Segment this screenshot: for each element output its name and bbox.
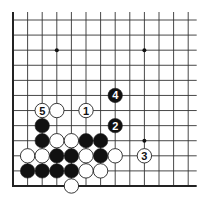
star-point-icon [142,48,146,52]
stone-black [64,164,78,178]
stone-black [50,149,64,163]
black-stone-icon [50,164,64,178]
stone-black [50,164,64,178]
move-number-label: 5 [39,105,45,117]
white-stone-icon [79,149,93,163]
white-stone-icon [79,164,93,178]
white-stone-icon [50,103,64,117]
black-stone-icon [35,134,49,148]
black-stone-icon [35,164,49,178]
move-number-label: 1 [83,105,89,117]
white-stone-icon [93,164,107,178]
stone-white-move-5: 5 [35,103,49,117]
black-stone-icon [20,164,34,178]
stone-black [79,134,93,148]
stone-white [79,164,93,178]
black-stone-icon [93,134,107,148]
stone-white [79,149,93,163]
stone-white [50,103,64,117]
black-stone-icon [50,149,64,163]
move-number-label: 4 [112,89,119,101]
stone-white [93,164,107,178]
stone-black [93,149,107,163]
stone-black [20,164,34,178]
white-stone-icon [50,134,64,148]
star-point-icon [142,139,146,143]
black-stone-icon [93,149,107,163]
white-stone-icon [20,149,34,163]
stone-black [35,134,49,148]
stone-white [50,134,64,148]
stone-white [20,149,34,163]
stone-white-move-3: 3 [137,149,151,163]
move-number-label: 3 [141,150,147,162]
white-stone-icon [108,149,122,163]
go-board: 51423 [0,0,210,206]
black-stone-icon [64,164,78,178]
stone-white [64,179,78,193]
stone-black-move-4: 4 [108,88,122,102]
stone-black [93,134,107,148]
white-stone-icon [35,149,49,163]
stone-black [64,149,78,163]
black-stone-icon [79,134,93,148]
black-stone-icon [64,149,78,163]
stone-white [108,149,122,163]
white-stone-icon [64,134,78,148]
stone-white [64,134,78,148]
stone-white-move-1: 1 [79,103,93,117]
move-number-label: 2 [112,120,118,132]
black-stone-icon [35,118,49,132]
stone-black [35,164,49,178]
star-point-icon [55,48,59,52]
white-stone-icon [64,179,78,193]
stone-black [35,118,49,132]
stone-white [35,149,49,163]
stone-black-move-2: 2 [108,118,122,132]
